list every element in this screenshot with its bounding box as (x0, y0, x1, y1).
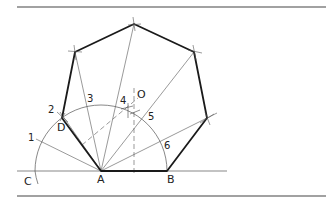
heptagon (62, 24, 207, 171)
label-6: 6 (164, 140, 170, 151)
heptagon-construction-diagram: A B C D O 1 2 3 4 5 6 (0, 0, 331, 197)
label-d: D (57, 121, 65, 134)
label-a: A (97, 173, 105, 186)
label-1: 1 (28, 132, 34, 143)
label-c: C (24, 175, 32, 188)
division-rays (36, 24, 217, 171)
label-5: 5 (148, 111, 154, 122)
label-b: B (167, 173, 175, 186)
vertex-ticks (57, 17, 214, 125)
label-4: 4 (120, 95, 126, 106)
label-2: 2 (48, 104, 54, 115)
label-o: O (137, 88, 146, 101)
label-3: 3 (87, 93, 93, 104)
